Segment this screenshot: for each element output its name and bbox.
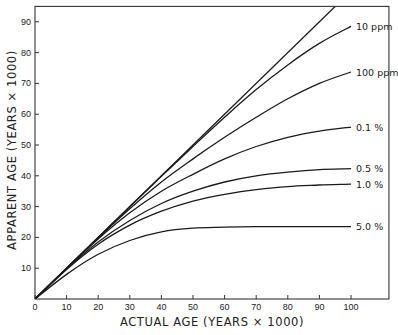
chart: 0102030405060708090100 10203040506070809… <box>0 0 398 335</box>
x-tick-label: 90 <box>314 302 324 312</box>
x-tick-label: 40 <box>156 302 166 312</box>
y-tick-label: 20 <box>21 232 31 242</box>
y-tick-label: 30 <box>21 202 31 212</box>
curve-0-1 <box>35 127 351 299</box>
x-tick-label: 30 <box>125 302 135 312</box>
x-tick-label: 0 <box>32 302 37 312</box>
series-label-0-5: 0.5 % <box>356 163 383 174</box>
curve-5-0 <box>35 227 351 299</box>
plot-frame <box>35 6 389 299</box>
y-tick-label: 80 <box>21 48 31 58</box>
plot-border <box>35 6 389 299</box>
curves <box>35 0 351 299</box>
series-label-100-ppm: 100 ppm <box>356 67 398 78</box>
series-labels: 10 ppm100 ppm0.1 %0.5 %1.0 %5.0 % <box>356 21 398 232</box>
x-tick-label: 100 <box>343 302 358 312</box>
y-tick-label: 50 <box>21 140 31 150</box>
y-tick-label: 90 <box>21 17 31 27</box>
curve-10-ppm <box>35 26 351 299</box>
y-tick-label: 10 <box>21 263 31 273</box>
x-tick-label: 70 <box>251 302 261 312</box>
x-tick-label: 50 <box>188 302 198 312</box>
x-tick-label: 20 <box>93 302 103 312</box>
x-axis-title: ACTUAL AGE (YEARS × 1000) <box>120 315 304 329</box>
y-tick-label: 70 <box>21 78 31 88</box>
y-tick-label: 40 <box>21 171 31 181</box>
x-tick-label: 60 <box>220 302 230 312</box>
curve-1-0 <box>35 184 351 299</box>
series-label-10-ppm: 10 ppm <box>356 21 392 32</box>
y-tick-label: 60 <box>21 109 31 119</box>
x-tick-label: 10 <box>62 302 72 312</box>
curve-0-5 <box>35 169 351 299</box>
series-label-1-0: 1.0 % <box>356 179 383 190</box>
y-axis-ticks: 102030405060708090 <box>21 17 39 273</box>
series-label-0-1: 0.1 % <box>356 122 383 133</box>
x-axis-ticks: 0102030405060708090100 <box>32 295 358 312</box>
y-axis-title: APPARENT AGE (YEARS × 1000) <box>5 50 19 250</box>
series-label-5-0: 5.0 % <box>356 221 383 232</box>
x-tick-label: 80 <box>283 302 293 312</box>
